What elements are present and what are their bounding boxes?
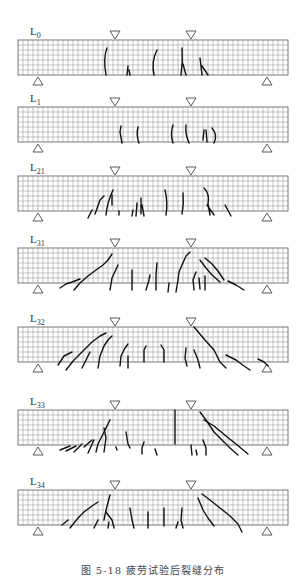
load-point-icon [110, 481, 120, 489]
load-point-icon [186, 318, 196, 326]
beam-L1 [18, 98, 288, 152]
support-icon [33, 285, 43, 293]
beam-L34 [18, 481, 288, 535]
support-icon [262, 213, 272, 221]
beam-L0 [18, 31, 288, 85]
load-point-icon [186, 401, 196, 409]
load-point-icon [110, 31, 120, 39]
beam-label-L0: L0 [30, 25, 41, 40]
beam-label-L33: L33 [30, 395, 45, 410]
crack [191, 445, 197, 455]
support-icon [262, 77, 272, 85]
crack [168, 283, 169, 292]
support-icon [33, 144, 43, 152]
beam-label-L34: L34 [30, 475, 45, 490]
beams-drawing [0, 0, 306, 587]
load-point-icon [110, 401, 120, 409]
load-point-icon [110, 318, 120, 326]
load-point-icon [110, 98, 120, 106]
beam-label-L31: L31 [30, 233, 45, 248]
beam-L21 [18, 167, 288, 221]
support-icon [262, 527, 272, 535]
load-point-icon [186, 239, 196, 247]
load-point-icon [186, 31, 196, 39]
support-icon [262, 144, 272, 152]
beam-label-L1: L1 [30, 92, 41, 107]
load-point-icon [110, 167, 120, 175]
load-point-icon [110, 239, 120, 247]
load-point-icon [186, 167, 196, 175]
crack [199, 278, 200, 289]
crack [155, 449, 157, 455]
support-icon [33, 213, 43, 221]
figure-caption: 图 5-18 疲劳试验后裂缝分布 [0, 562, 306, 577]
beam-label-L32: L32 [30, 312, 45, 327]
crack [108, 522, 109, 528]
support-icon [33, 527, 43, 535]
load-point-icon [186, 481, 196, 489]
beam-L31 [18, 239, 288, 293]
beam-label-L21: L21 [30, 161, 45, 176]
beam-L33 [18, 401, 288, 455]
support-icon [262, 447, 272, 455]
support-icon [33, 77, 43, 85]
load-point-icon [186, 98, 196, 106]
support-icon [33, 447, 43, 455]
support-icon [262, 285, 272, 293]
beam-L32 [18, 318, 288, 372]
crack [116, 447, 117, 450]
support-icon [33, 364, 43, 372]
